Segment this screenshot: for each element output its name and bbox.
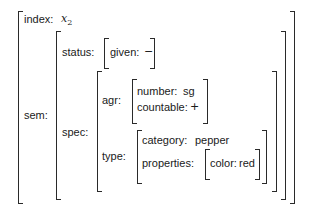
type-label: type: (102, 150, 126, 163)
type-bracket-right (262, 130, 267, 184)
color-bracket-right (255, 149, 260, 180)
number-value: sg (183, 85, 195, 98)
given-label: given: (110, 46, 139, 59)
outer-bracket-right (290, 11, 295, 204)
countable-label: countable: (137, 101, 188, 114)
countable-value: + (190, 100, 199, 113)
category-label: category: (142, 134, 187, 147)
sem-label: sem: (24, 109, 48, 122)
status-bracket-left (104, 38, 109, 69)
properties-label: properties: (142, 157, 194, 170)
agr-bracket-right (203, 79, 208, 124)
outer-bracket-left (18, 11, 23, 204)
spec-label: spec: (62, 126, 88, 139)
spec-bracket-left (97, 71, 102, 192)
agr-label: agr: (102, 94, 121, 107)
given-value: − (144, 45, 153, 58)
number-label: number: (137, 85, 177, 98)
sem-bracket-right (281, 31, 286, 200)
sem-bracket-left (56, 31, 61, 200)
color-label: color: (210, 157, 237, 170)
status-label: status: (62, 46, 94, 59)
spec-bracket-right (272, 71, 277, 192)
color-value: red (239, 157, 255, 170)
index-subscript: 2 (67, 18, 72, 27)
index-label: index: (24, 13, 53, 26)
index-value: x2 (61, 12, 72, 29)
category-value: pepper (195, 134, 229, 147)
